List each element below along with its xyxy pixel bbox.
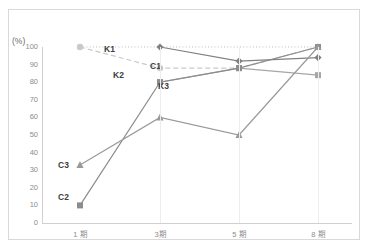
series-label-K1: K1 <box>104 44 115 54</box>
chart-series-canvas <box>0 0 370 250</box>
gridline-2 <box>239 47 240 223</box>
point-C3 <box>76 161 83 168</box>
gridline-1 <box>160 47 161 223</box>
point-C2 <box>77 202 83 208</box>
point-K2 <box>77 44 83 50</box>
series-label-C2: C2 <box>58 192 69 202</box>
series-label-K2: K2 <box>113 70 124 80</box>
x-axis <box>42 223 352 224</box>
series-label-C3: C3 <box>58 160 69 170</box>
series-C3 <box>76 43 321 168</box>
y-axis <box>42 47 43 223</box>
gridline-3 <box>318 47 319 223</box>
